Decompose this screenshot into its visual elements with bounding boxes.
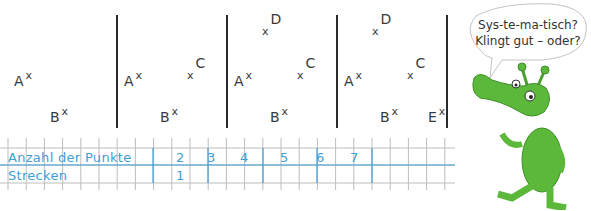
points-value: 7 xyxy=(350,151,359,164)
panel-divider xyxy=(226,15,228,128)
row-label-points: Anzahl der Punkte xyxy=(8,151,131,164)
speech-line-1: Sys-te-ma-tisch? xyxy=(466,17,590,33)
point-d: xD xyxy=(262,20,281,34)
point-b: Bx xyxy=(160,110,178,124)
point-c: xC xyxy=(187,64,205,78)
panel-divider xyxy=(336,15,338,128)
point-a: Ax xyxy=(234,74,252,88)
row-label-segments: Strecken xyxy=(8,169,67,182)
panel-divider xyxy=(116,15,118,128)
panel-divider xyxy=(446,15,448,128)
points-value: 5 xyxy=(280,151,289,164)
speech-line-2: Klingt gut – oder? xyxy=(466,33,590,49)
points-value: 4 xyxy=(240,151,249,164)
points-value: 2 xyxy=(176,151,185,164)
points-value: 3 xyxy=(207,151,216,164)
point-c: xC xyxy=(297,64,315,78)
point-a: Ax xyxy=(124,74,142,88)
point-e: Ex xyxy=(428,110,445,124)
segments-value[interactable]: 1 xyxy=(176,169,185,182)
point-b: Bx xyxy=(380,110,398,124)
point-b: Bx xyxy=(50,110,68,124)
point-c: xC xyxy=(407,64,425,78)
points-value: 6 xyxy=(316,151,325,164)
speech-bubble-text: Sys-te-ma-tisch? Klingt gut – oder? xyxy=(466,17,590,49)
point-a: Ax xyxy=(14,74,32,88)
point-b: Bx xyxy=(270,110,288,124)
point-d: xD xyxy=(372,20,391,34)
point-a: Ax xyxy=(344,74,362,88)
green-alien-mascot-icon xyxy=(470,60,590,210)
